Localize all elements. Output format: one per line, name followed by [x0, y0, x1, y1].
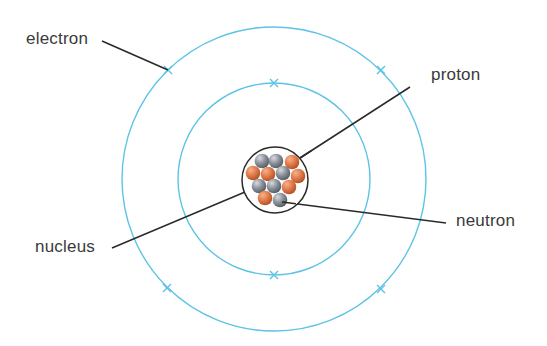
proton-particle	[258, 191, 273, 206]
proton-particle	[246, 166, 261, 181]
label-electron: electron	[26, 30, 88, 47]
atom-diagram	[0, 0, 547, 346]
nucleus	[242, 147, 312, 213]
proton-particle	[282, 180, 297, 195]
neutron-particle	[255, 154, 270, 169]
electron-marker-icon	[377, 66, 385, 74]
electron-leader	[102, 41, 168, 70]
neutron-leader	[282, 202, 446, 223]
leader-lines	[102, 41, 446, 248]
electron-marker-icon	[163, 284, 171, 292]
neutron-particle	[273, 193, 288, 208]
proton-leader	[300, 87, 410, 158]
label-neutron: neutron	[456, 212, 515, 229]
nucleus-leader	[112, 192, 245, 248]
label-proton: proton	[431, 66, 480, 83]
neutron-particle	[276, 166, 291, 181]
neutron-particle	[267, 179, 282, 194]
label-nucleus: nucleus	[35, 238, 95, 255]
